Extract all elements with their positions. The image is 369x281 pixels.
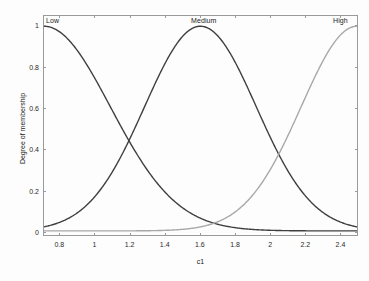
y-tickmark-right [355,25,358,26]
mf-label-medium: Medium [191,17,217,24]
x-tickmark-top [200,15,201,18]
x-tickmark [305,233,306,236]
x-tick-label: 2.4 [336,241,346,248]
x-tickmark [165,233,166,236]
x-tick-label: 1.2 [125,241,135,248]
x-tickmark-top [94,15,95,18]
y-tickmark [43,232,46,233]
fuzzy-membership-figure: Low Medium High 0.811.21.41.61.822.22.40… [0,0,369,281]
mf-label-high: High [333,17,348,24]
x-tick-label: 2 [268,241,272,248]
x-axis-label: c1 [43,258,358,265]
x-tickmark-top [235,15,236,18]
x-tick-label: 1.8 [230,241,240,248]
x-tick-label: 1.6 [195,241,205,248]
x-tickmark [94,233,95,236]
x-tickmark-top [270,15,271,18]
y-tickmark [43,25,46,26]
x-tickmark [340,233,341,236]
x-tickmark-top [165,15,166,18]
x-tickmark [270,233,271,236]
x-tickmark-top [130,15,131,18]
x-tickmark [130,233,131,236]
y-tickmark [43,149,46,150]
plot-curves [44,16,357,235]
y-tick-label: 0 [15,228,39,235]
x-tick-label: 1.4 [160,241,170,248]
x-tickmark-top [340,15,341,18]
y-tickmark-right [355,191,358,192]
x-tick-label: 2.2 [300,241,310,248]
mf-label-low: Low [46,17,59,24]
y-tickmark [43,108,46,109]
curve-medium [44,26,357,227]
x-tickmark-top [59,15,60,18]
y-tickmark-right [355,67,358,68]
y-tickmark-right [355,232,358,233]
x-tickmark-top [305,15,306,18]
y-tickmark-right [355,149,358,150]
x-tickmark [235,233,236,236]
plot-axes [43,15,358,236]
x-tickmark [200,233,201,236]
x-tick-label: 0.8 [54,241,64,248]
y-tick-label: 1 [15,22,39,29]
x-tick-label: 1 [93,241,97,248]
x-tickmark [59,233,60,236]
y-tickmark-right [355,108,358,109]
y-tickmark [43,67,46,68]
y-tickmark [43,191,46,192]
y-axis-label: Degree of membership [19,69,26,189]
